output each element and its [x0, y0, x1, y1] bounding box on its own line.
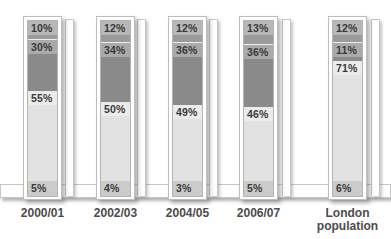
- divider-post: [65, 19, 74, 196]
- bar-segment: 12%: [173, 21, 202, 42]
- x-axis-label-2002-03: 2002/03: [80, 207, 151, 220]
- bar-2000-01: 10% 30% 55% 5%: [23, 16, 62, 200]
- segment-label: 12%: [333, 21, 362, 35]
- bar-segment: 4%: [101, 189, 130, 196]
- bar-segment: 49%: [173, 105, 202, 191]
- bar-segment: 55%: [28, 91, 57, 187]
- bar-stack: 12% 34% 50% 4%: [100, 20, 131, 197]
- segment-label: 11%: [333, 43, 362, 57]
- segment-label: 36%: [244, 45, 273, 59]
- bar-stack: 10% 30% 55% 5%: [27, 20, 58, 197]
- bar-segment: 36%: [244, 44, 273, 107]
- bar-segment: 34%: [101, 42, 130, 102]
- bar-segment: 10%: [28, 21, 57, 39]
- bar-segment: 36%: [173, 42, 202, 105]
- segment-label: 5%: [244, 181, 273, 196]
- bar-2006-07: 13% 36% 46% 5%: [239, 16, 278, 200]
- segment-label: 30%: [28, 40, 57, 54]
- segment-label: 5%: [28, 181, 57, 196]
- divider-post: [371, 19, 380, 196]
- bar-2004-05: 12% 36% 49% 3%: [168, 16, 207, 200]
- bar-segment: 13%: [244, 21, 273, 44]
- divider-post: [137, 19, 146, 196]
- segment-label: 46%: [244, 107, 273, 121]
- divider-post: [282, 19, 291, 196]
- x-axis-label-london-population: London population: [312, 207, 383, 232]
- segment-label: 12%: [173, 21, 202, 35]
- bar-segment: 71%: [333, 61, 362, 185]
- bar-segment: 5%: [244, 187, 273, 196]
- x-axis-label-2000-01: 2000/01: [7, 207, 78, 220]
- segment-label: 55%: [28, 91, 57, 105]
- x-axis-label-2006-07: 2006/07: [223, 207, 294, 220]
- bar-segment: 12%: [101, 21, 130, 42]
- x-axis-label-2004-05: 2004/05: [152, 207, 223, 220]
- bar-stack: 12% 11% 71% 6%: [332, 20, 363, 197]
- bar-segment: 5%: [28, 187, 57, 196]
- segment-label: 6%: [333, 181, 362, 196]
- bar-segment: 3%: [173, 191, 202, 196]
- segment-label: 10%: [28, 21, 57, 35]
- segment-label: 13%: [244, 21, 273, 35]
- bar-stack: 12% 36% 49% 3%: [172, 20, 203, 197]
- segment-label: 34%: [101, 43, 130, 57]
- segment-label: 49%: [173, 105, 202, 119]
- bar-london-population: 12% 11% 71% 6%: [328, 16, 367, 200]
- bar-segment: 30%: [28, 39, 57, 92]
- bar-2002-03: 12% 34% 50% 4%: [96, 16, 135, 200]
- divider-post: [209, 19, 218, 196]
- bar-stack: 13% 36% 46% 5%: [243, 20, 274, 197]
- segment-label: 50%: [101, 102, 130, 116]
- bar-segment: 6%: [333, 186, 362, 197]
- bar-segment: 12%: [333, 21, 362, 42]
- segment-label: 4%: [101, 181, 130, 196]
- stacked-bar-chart: 10% 30% 55% 5% 12% 34% 50% 4% 12% 36% 49…: [0, 0, 391, 239]
- bar-segment: 11%: [333, 42, 362, 61]
- segment-label: 71%: [333, 61, 362, 75]
- segment-label: 36%: [173, 43, 202, 57]
- bar-segment: 50%: [101, 102, 130, 190]
- segment-label: 12%: [101, 21, 130, 35]
- segment-label: 3%: [173, 181, 202, 196]
- bar-segment: 46%: [244, 107, 273, 188]
